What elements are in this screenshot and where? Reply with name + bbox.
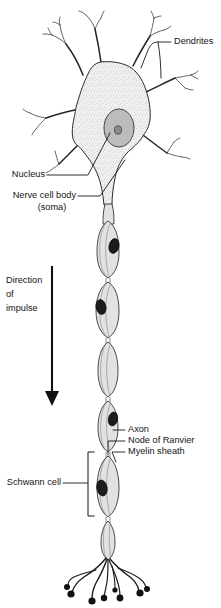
label-soma: (soma) — [38, 202, 67, 212]
label-direction-line1: Direction — [6, 275, 42, 285]
label-dendrites: Dendrites — [174, 36, 214, 46]
label-direction-line2: of — [6, 289, 14, 299]
label-direction-line3: impulse — [6, 303, 38, 313]
label-nucleus: Nucleus — [12, 169, 46, 179]
label-myelin-sheath: Myelin sheath — [128, 446, 185, 456]
label-axon: Axon — [128, 424, 149, 434]
label-nerve-cell-body: Nerve cell body — [13, 190, 77, 200]
nucleolus-shape — [114, 126, 121, 134]
label-schwann-cell: Schwann cell — [7, 477, 61, 487]
neuron-diagram: Dendrites Nucleus Nerve cell body (soma)… — [0, 0, 221, 608]
label-node-of-ranvier: Node of Ranvier — [128, 435, 194, 445]
